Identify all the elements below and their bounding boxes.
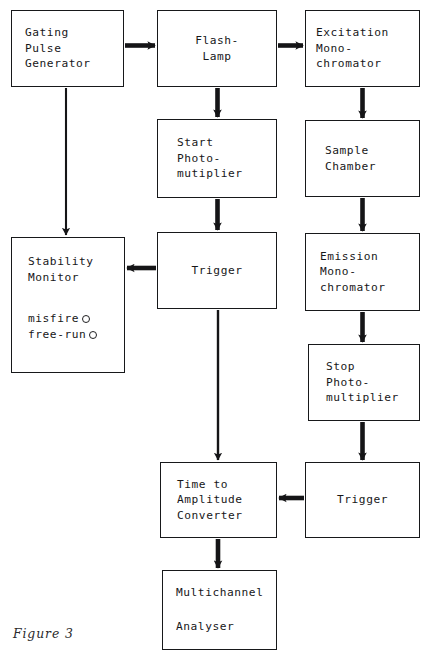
flash-lamp-line-2: Lamp [202, 49, 231, 65]
flash-lamp-line-1: Flash- [195, 33, 239, 49]
tac-line-3: Converter [177, 508, 270, 524]
figure-caption: Figure 3 [13, 626, 74, 641]
node-multichannel-analyser[interactable]: Multichannel Analyser [162, 570, 277, 650]
trigger-lower-label: Trigger [337, 492, 388, 508]
excitation-monochromator-line-1: Excitation [316, 25, 413, 41]
node-emission-monochromator[interactable]: Emission Mono- chromator [305, 233, 420, 311]
multichannel-analyser-line-2: Analyser [176, 619, 270, 635]
emission-monochromator-line-3: chromator [320, 280, 413, 296]
stability-indicator-misfire[interactable]: misfire [28, 311, 118, 327]
start-photomultiplier-line-2: Photo- [177, 151, 270, 167]
emission-monochromator-line-1: Emission [320, 249, 413, 265]
node-gating-pulse-generator[interactable]: Gating Pulse Generator [11, 10, 124, 87]
gating-pulse-generator-line-3: Generator [25, 56, 117, 72]
figure-page: Gating Pulse Generator Flash- Lamp Excit… [0, 0, 430, 653]
multichannel-analyser-line-1: Multichannel [176, 585, 270, 601]
tac-line-2: Amplitude [177, 492, 270, 508]
stop-photomultiplier-line-3: multiplier [326, 390, 413, 406]
start-photomultiplier-line-1: Start [177, 135, 270, 151]
stop-photomultiplier-line-2: Photo- [326, 375, 413, 391]
sample-chamber-line-1: Sample [325, 143, 413, 159]
start-photomultiplier-line-3: mutiplier [177, 166, 270, 182]
node-flash-lamp[interactable]: Flash- Lamp [157, 10, 277, 87]
emission-monochromator-line-2: Mono- [320, 264, 413, 280]
free-run-lamp-icon [89, 331, 97, 339]
tac-line-1: Time to [177, 477, 270, 493]
node-trigger-upper[interactable]: Trigger [157, 232, 277, 309]
stability-indicator-misfire-label: misfire [28, 311, 79, 327]
node-sample-chamber[interactable]: Sample Chamber [305, 120, 420, 197]
excitation-monochromator-line-2: Mono- [316, 41, 413, 57]
node-stability-monitor[interactable]: Stability Monitor misfire free-run [11, 237, 125, 373]
node-trigger-lower[interactable]: Trigger [305, 462, 420, 538]
node-time-to-amplitude-converter[interactable]: Time to Amplitude Converter [160, 462, 277, 538]
node-start-photomultiplier[interactable]: Start Photo- mutiplier [157, 119, 277, 198]
stability-monitor-line-1: Stability [28, 254, 118, 270]
stability-indicator-free-run[interactable]: free-run [28, 327, 118, 343]
stop-photomultiplier-line-1: Stop [326, 359, 413, 375]
trigger-upper-label: Trigger [192, 263, 243, 279]
stability-monitor-spacer [28, 285, 118, 311]
gating-pulse-generator-line-2: Pulse [25, 41, 117, 57]
node-excitation-monochromator[interactable]: Excitation Mono- chromator [305, 10, 420, 87]
stability-monitor-line-2: Monitor [28, 270, 118, 286]
gating-pulse-generator-line-1: Gating [25, 25, 117, 41]
node-stop-photomultiplier[interactable]: Stop Photo- multiplier [308, 344, 420, 421]
excitation-monochromator-line-3: chromator [316, 56, 413, 72]
stability-indicator-free-run-label: free-run [28, 327, 86, 343]
sample-chamber-line-2: Chamber [325, 159, 413, 175]
misfire-lamp-icon [82, 315, 90, 323]
